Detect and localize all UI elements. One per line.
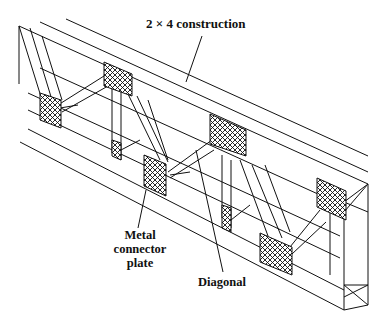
connector-plate <box>317 178 346 220</box>
plate-leader <box>138 190 146 228</box>
label-line: plate <box>108 256 172 270</box>
connector-plate <box>112 140 121 160</box>
connector-plate <box>104 62 132 96</box>
connector-plate <box>40 93 61 128</box>
label-2x4-construction: 2 × 4 construction <box>146 17 246 31</box>
label-metal-connector-plate: Metal connector plate <box>108 228 172 270</box>
connector-plate <box>222 205 231 232</box>
construction-leader <box>186 36 202 82</box>
truss-diagram <box>0 0 390 327</box>
diagonal-leader <box>196 150 223 272</box>
label-diagonal: Diagonal <box>198 275 246 289</box>
label-line: connector <box>108 242 172 256</box>
label-line: Metal <box>108 228 172 242</box>
truss-lines <box>19 19 368 310</box>
